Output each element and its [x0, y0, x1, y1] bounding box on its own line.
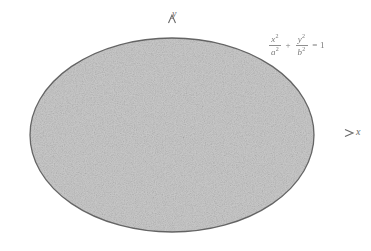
y-denominator: b2 [296, 46, 308, 57]
y-numerator: y2 [296, 33, 308, 44]
x-term-fraction: x2 a2 [269, 33, 281, 58]
x-axis-label: x [356, 126, 360, 137]
y-numerator-exponent: 2 [302, 33, 305, 39]
y-term-fraction: y2 b2 [296, 33, 308, 58]
x-numerator-exponent: 2 [275, 33, 278, 39]
equation-right-hand-side: = 1 [311, 40, 324, 50]
y-axis-label: y [172, 8, 176, 19]
x-denominator: a2 [269, 46, 281, 57]
y-fraction-bar [296, 45, 308, 46]
x-numerator: x2 [269, 33, 281, 44]
y-denominator-exponent: 2 [302, 46, 305, 52]
ellipse-figure: y x x2 a2 + y2 b2 = 1 [0, 0, 371, 251]
x-denominator-exponent: 2 [276, 46, 279, 52]
plus-operator: + [285, 40, 292, 50]
ellipse-equation: x2 a2 + y2 b2 = 1 [268, 33, 325, 58]
x-fraction-bar [269, 45, 281, 46]
